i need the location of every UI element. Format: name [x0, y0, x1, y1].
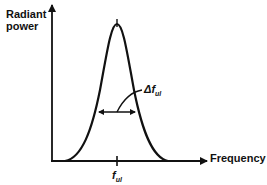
linewidth-label: Δful: [144, 83, 161, 100]
linewidth-symbol: Δf: [144, 83, 155, 95]
y-axis-label: Radiant power: [6, 8, 46, 32]
x-axis-label: Frequency: [210, 152, 266, 164]
center-frequency-label: ful: [112, 169, 122, 185]
y-axis-label-line2: power: [6, 20, 46, 32]
y-axis-label-line1: Radiant: [6, 8, 46, 20]
center-frequency-subscript: ul: [116, 176, 122, 183]
linewidth-subscript: ul: [155, 90, 161, 97]
